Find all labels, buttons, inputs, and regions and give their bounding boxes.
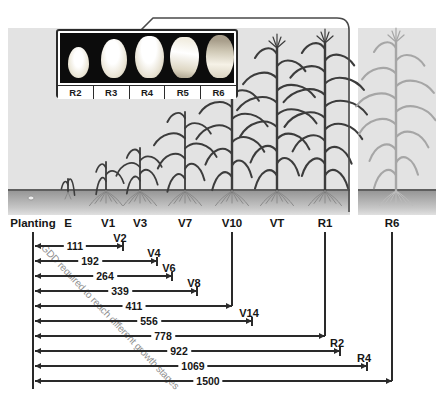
- header-stage-label-v10: V10: [222, 217, 242, 229]
- gdd-value-1069: 1069: [178, 360, 207, 372]
- arrowhead-right-icon: [226, 303, 232, 309]
- gdd-value-264: 264: [93, 270, 117, 282]
- stage-sublabel-r2: R2: [330, 337, 344, 349]
- stage-sublabel-v8: V8: [187, 277, 200, 289]
- stage-sublabel-v14: V14: [239, 307, 259, 319]
- arrowhead-left-icon: [35, 258, 41, 264]
- gdd-value-111: 111: [64, 240, 86, 252]
- stage-sublabel-v2: V2: [113, 232, 126, 244]
- arrowhead-left-icon: [35, 303, 41, 309]
- arrowhead-left-icon: [35, 363, 41, 369]
- header-stage-label-r1: R1: [318, 217, 333, 229]
- arrowhead-left-icon: [35, 273, 41, 279]
- arrowhead-left-icon: [35, 348, 41, 354]
- arrowhead-right-icon: [319, 333, 325, 339]
- arrowhead-left-icon: [35, 318, 41, 324]
- planting-axis: [32, 232, 34, 389]
- gdd-bar-r1: [35, 335, 325, 336]
- arrowhead-left-icon: [35, 378, 41, 384]
- stage-line-r1: [324, 232, 326, 336]
- header-stage-label-e: E: [64, 217, 72, 229]
- gdd-value-922: 922: [167, 345, 191, 357]
- header-stage-label-planting: Planting: [10, 217, 55, 229]
- gdd-timeline: GDD required to reach different growth s…: [0, 0, 436, 403]
- arrowhead-left-icon: [35, 288, 41, 294]
- header-stage-label-r6: R6: [385, 217, 400, 229]
- gdd-value-1500: 1500: [193, 375, 222, 387]
- figure-root: R2R3R4R5R6 GDD required to reach differe…: [0, 0, 436, 403]
- header-stage-label-v3: V3: [133, 217, 147, 229]
- gdd-value-339: 339: [108, 285, 132, 297]
- arrowhead-left-icon: [35, 243, 41, 249]
- gdd-value-411: 411: [123, 300, 146, 312]
- stage-sublabel-v6: V6: [162, 262, 175, 274]
- stage-sublabel-r4: R4: [357, 352, 371, 364]
- arrowhead-left-icon: [35, 333, 41, 339]
- gdd-value-192: 192: [78, 255, 102, 267]
- header-stage-label-v1: V1: [101, 217, 115, 229]
- header-stage-label-v7: V7: [178, 217, 192, 229]
- stage-line-v10: [231, 232, 233, 306]
- stage-sublabel-v4: V4: [147, 247, 160, 259]
- header-stage-label-vt: VT: [270, 217, 285, 229]
- stage-line-r6: [391, 232, 393, 381]
- gdd-value-556: 556: [137, 315, 161, 327]
- gdd-value-778: 778: [151, 330, 175, 342]
- arrowhead-right-icon: [386, 378, 392, 384]
